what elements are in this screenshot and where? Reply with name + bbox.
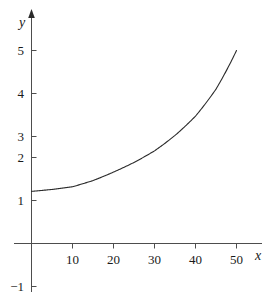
chart-figure: 5 4 3 2 1 −1 10 20 30 40 50 y x — [0, 0, 267, 303]
y-tick-label-1: 1 — [2, 194, 24, 207]
y-axis-ticks — [32, 51, 37, 287]
y-axis-label: y — [19, 16, 25, 30]
x-tick-label-20: 20 — [99, 253, 128, 266]
y-tick-label-3: 3 — [2, 130, 24, 143]
y-tick-label-minus-1: −1 — [0, 280, 24, 293]
data-series-curve — [32, 51, 237, 192]
x-axis-ticks — [73, 244, 237, 249]
y-tick-label-5: 5 — [2, 44, 24, 57]
x-axis-label: x — [255, 249, 261, 263]
x-tick-label-10: 10 — [58, 253, 87, 266]
y-axis-arrow-icon — [28, 9, 35, 18]
x-tick-label-50: 50 — [222, 253, 251, 266]
x-tick-label-30: 30 — [140, 253, 169, 266]
x-tick-label-40: 40 — [181, 253, 210, 266]
y-tick-label-4: 4 — [2, 87, 24, 100]
y-tick-label-2: 2 — [2, 151, 24, 164]
